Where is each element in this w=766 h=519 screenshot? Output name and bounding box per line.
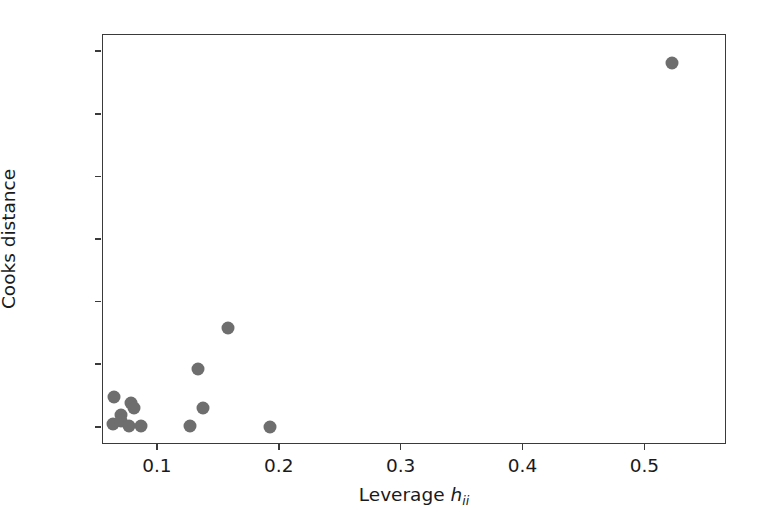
y-axis-label: Cooks distance <box>0 169 19 309</box>
x-tick-mark <box>644 444 646 450</box>
x-tick-label: 0.4 <box>508 455 537 476</box>
x-axis: 0.10.20.30.40.5 <box>0 0 766 519</box>
x-tick-label: 0.1 <box>142 455 171 476</box>
x-tick-mark <box>278 444 280 450</box>
x-axis-label-symbol: h <box>450 484 462 505</box>
x-axis-label-subscript: ii <box>462 493 469 508</box>
x-tick-label: 0.5 <box>630 455 659 476</box>
x-tick-mark <box>522 444 524 450</box>
scatter-plot-figure: 0.00.20.40.60.81.01.2 0.10.20.30.40.5 Co… <box>0 0 766 519</box>
x-axis-label-text: Leverage <box>359 484 451 505</box>
x-tick-label: 0.3 <box>386 455 415 476</box>
x-tick-label: 0.2 <box>264 455 293 476</box>
x-tick-mark <box>400 444 402 450</box>
x-tick-mark <box>156 444 158 450</box>
x-axis-label: Leverage hii <box>359 484 469 509</box>
